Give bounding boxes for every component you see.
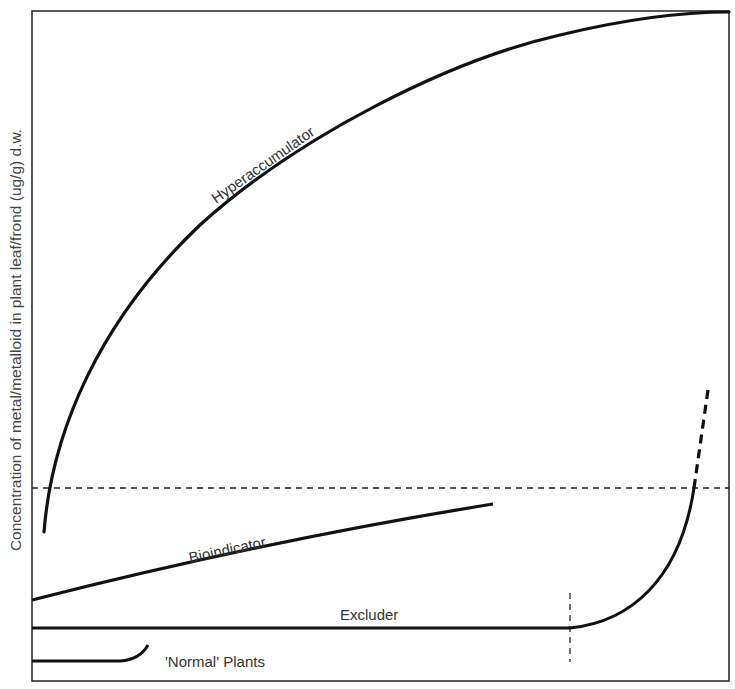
- hyperaccumulator-curve: [44, 12, 729, 532]
- normal-plants-curve: [32, 645, 148, 661]
- chart-canvas: Hyperaccumulator Bioindicator Excluder '…: [0, 0, 735, 689]
- excluder-extension: [694, 390, 708, 488]
- bioindicator-label: Bioindicator: [187, 533, 267, 566]
- excluder-label: Excluder: [340, 606, 398, 623]
- hyperaccumulator-label: Hyperaccumulator: [208, 123, 317, 207]
- bioindicator-curve: [32, 504, 493, 600]
- plot-frame: [32, 11, 729, 681]
- y-axis-label: Concentration of metal/metalloid in plan…: [7, 129, 24, 551]
- normal-plants-label: 'Normal' Plants: [165, 653, 265, 670]
